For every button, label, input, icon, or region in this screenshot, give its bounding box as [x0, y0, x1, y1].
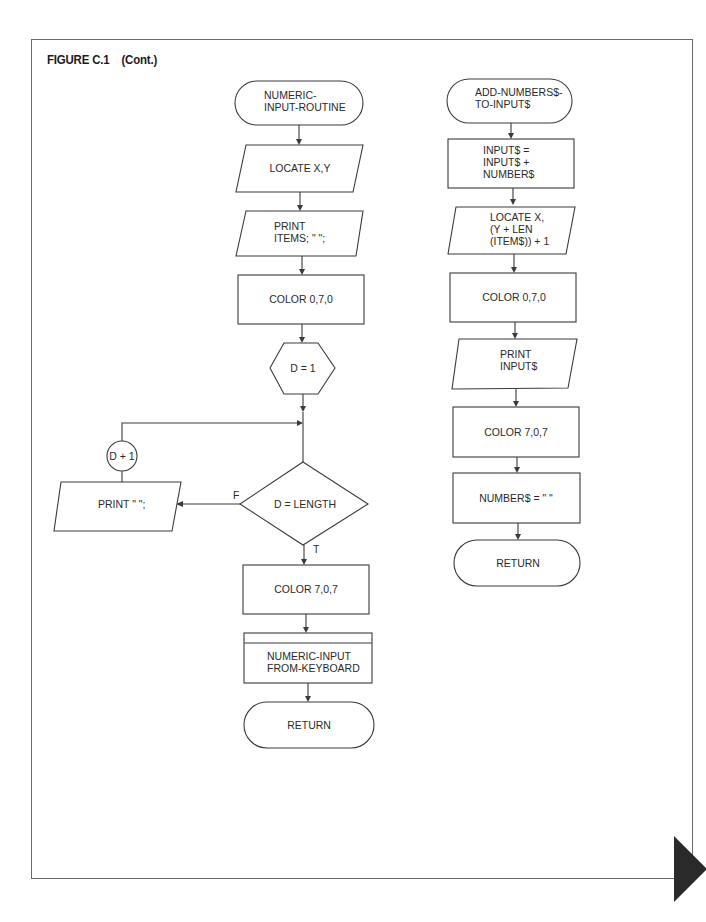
node-label: NUMERIC-INPUTFROM-KEYBOARD — [267, 650, 360, 674]
node-label: PRINT " "; — [98, 498, 146, 510]
node-label: RETURN — [496, 557, 540, 569]
node-label: D = 1 — [290, 362, 316, 374]
decision-d-equals-length: D = LENGTH F T — [233, 462, 368, 555]
terminal-add-numbers-to-input: ADD-NUMBERS$-TO-INPUT$ — [447, 79, 572, 123]
process-color-070: COLOR 0,7,0 — [238, 275, 364, 324]
node-label: LOCATE X,Y — [269, 162, 330, 174]
process-color-707-right: COLOR 7,0,7 — [453, 407, 579, 457]
node-label: D + 1 — [109, 450, 135, 462]
node-label: COLOR 0,7,0 — [482, 291, 546, 303]
flowchart-canvas: NUMERIC-INPUT-ROUTINE LOCATE X,Y PRINTIT… — [0, 0, 706, 922]
process-number-reset: NUMBER$ = " " — [453, 473, 580, 523]
terminal-numeric-input-routine: NUMERIC-INPUT-ROUTINE — [235, 81, 363, 125]
node-label: COLOR 7,0,7 — [484, 426, 548, 438]
node-label: COLOR 0,7,0 — [269, 293, 333, 305]
left-flowchart: NUMERIC-INPUT-ROUTINE LOCATE X,Y PRINTIT… — [54, 81, 374, 748]
true-label: T — [313, 543, 320, 555]
terminal-return-left: RETURN — [244, 702, 374, 748]
io-print-items: PRINTITEMS; " "; — [236, 211, 363, 256]
node-label: NUMBER$ = " " — [479, 492, 553, 504]
process-input-concat: INPUT$ =INPUT$ +NUMBER$ — [448, 139, 574, 188]
process-color-707: COLOR 7,0,7 — [243, 565, 369, 614]
io-locate-len: LOCATE X,(Y + LEN(ITEM$)) + 1 — [448, 207, 575, 254]
figure-page: FIGURE C.1 (Cont.) NUMERIC-INPUT-ROUTINE… — [0, 0, 706, 922]
false-label: F — [233, 489, 239, 501]
io-print-input: PRINTINPUT$ — [452, 339, 577, 389]
predefined-numeric-input-from-keyboard: NUMERIC-INPUTFROM-KEYBOARD — [244, 633, 372, 683]
node-label: RETURN — [287, 719, 331, 731]
connector-d-plus-1: D + 1 — [107, 441, 137, 471]
io-print-space: PRINT " "; — [54, 482, 181, 531]
node-label: COLOR 7,0,7 — [274, 583, 338, 595]
node-label: INPUT$ =INPUT$ +NUMBER$ — [483, 144, 535, 180]
process-color-070-right: COLOR 0,7,0 — [450, 273, 576, 322]
io-locate-xy: LOCATE X,Y — [236, 145, 363, 192]
terminal-return-right: RETURN — [454, 540, 580, 586]
page-tab-marker — [674, 836, 706, 902]
preparation-d-equals-1: D = 1 — [270, 343, 335, 394]
node-label: D = LENGTH — [274, 498, 336, 510]
right-flowchart: ADD-NUMBERS$-TO-INPUT$ INPUT$ =INPUT$ +N… — [447, 79, 580, 586]
